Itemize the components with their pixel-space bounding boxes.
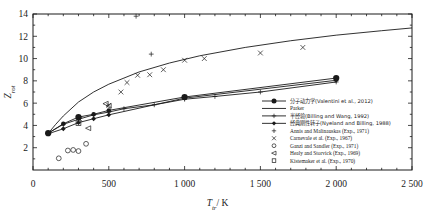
marker-open-circle: [65, 148, 70, 153]
marker-cross: [135, 73, 140, 78]
series-6: [56, 141, 88, 160]
x-axis-label: Ttr/ K: [207, 198, 229, 211]
legend-label: 半经验(Billing and Wang, 1992): [290, 112, 369, 120]
legend-label: Kistemaker et al. (Exp., 1970): [290, 158, 355, 165]
y-tick-label: 10: [19, 54, 29, 64]
x-tick-label: 1 500: [250, 179, 272, 189]
marker-cross: [147, 72, 152, 77]
marker-cross: [161, 67, 166, 72]
legend-item-3[interactable]: 经典刚性转子(Nyeland and Billing, 1988): [262, 119, 391, 127]
marker-filled-diamond: [61, 126, 66, 131]
x-tick-label: 2 000: [326, 179, 348, 189]
legend-item-4[interactable]: Annis and Malinauskas (Exp., 1971): [272, 128, 369, 135]
marker-open-square: [272, 159, 276, 163]
marker-open-circle: [56, 156, 61, 161]
marker-cross: [258, 51, 263, 56]
legend-label: 分子动力学(Valentini et al., 2012): [290, 97, 373, 105]
legend-label: Parker: [290, 105, 304, 111]
rotational-collision-number-chart: 05001 0001 5002 0002 5002468101214Ttr/ K…: [0, 0, 433, 217]
marker-open-circle: [272, 144, 276, 148]
marker-plus: [134, 14, 139, 19]
y-tick-label: 12: [19, 32, 29, 42]
legend-item-6[interactable]: Ganzi and Sandler (Exp., 1971): [272, 143, 358, 150]
marker-cross: [202, 56, 207, 61]
marker-open-circle: [84, 141, 89, 146]
legend-label: 经典刚性转子(Nyeland and Billing, 1988): [290, 119, 391, 127]
y-tick-label: 6: [23, 99, 28, 109]
marker-cross: [272, 136, 276, 140]
marker-filled-diamond: [91, 116, 96, 121]
legend-item-8[interactable]: Kistemaker et al. (Exp., 1970): [272, 158, 355, 165]
x-tick-label: 2 500: [401, 179, 423, 189]
marker-open-circle: [71, 148, 76, 153]
marker-plus: [272, 129, 276, 133]
marker-open-circle: [76, 149, 81, 154]
legend-label: Carnevale et al. (Exp., 1967): [290, 135, 352, 142]
legend-item-2[interactable]: 半经验(Billing and Wang, 1992): [262, 112, 369, 120]
marker-left-triangle: [272, 151, 276, 155]
legend-item-1[interactable]: Parker: [262, 105, 304, 111]
marker-left-triangle: [86, 126, 91, 131]
y-tick-label: 2: [23, 143, 28, 153]
marker-plus: [149, 52, 154, 57]
chart-canvas: 05001 0001 5002 0002 5002468101214Ttr/ K…: [0, 0, 433, 217]
y-tick-label: 14: [19, 9, 29, 19]
marker-filled-circle: [272, 99, 277, 104]
y-tick-label: 8: [23, 76, 28, 86]
x-tick-label: 500: [102, 179, 117, 189]
series-4: [134, 14, 154, 57]
legend: 分子动力学(Valentini et al., 2012)Parker半经验(B…: [262, 97, 391, 165]
legend-label: Annis and Malinauskas (Exp., 1971): [290, 128, 369, 135]
y-tick-label: 4: [23, 121, 28, 131]
marker-cross: [119, 90, 124, 95]
legend-label: Healy and Storvick (Exp., 1969): [290, 150, 360, 157]
x-tick-label: 1 000: [174, 179, 196, 189]
marker-cross: [300, 45, 305, 50]
marker-plus: [272, 114, 276, 118]
legend-item-7[interactable]: Healy and Storvick (Exp., 1969): [272, 150, 361, 157]
marker-plus: [258, 90, 263, 95]
x-tick-label: 0: [31, 179, 36, 189]
y-axis-label: Zrot: [3, 84, 16, 98]
marker-filled-diamond: [272, 121, 276, 125]
legend-item-5[interactable]: Carnevale et al. (Exp., 1967): [272, 135, 352, 142]
legend-label: Ganzi and Sandler (Exp., 1971): [290, 143, 358, 150]
marker-filled-diamond: [106, 112, 111, 117]
legend-item-0[interactable]: 分子动力学(Valentini et al., 2012): [262, 97, 373, 105]
marker-cross: [125, 80, 130, 85]
plot-series: [45, 14, 412, 161]
